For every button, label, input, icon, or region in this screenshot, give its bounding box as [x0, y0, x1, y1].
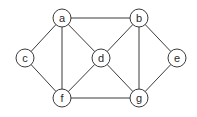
node-label: g [136, 92, 142, 104]
node-label: c [22, 52, 28, 64]
node-b: b [130, 9, 148, 27]
node-label: b [136, 12, 142, 24]
graph-diagram: abcdefg [0, 0, 197, 117]
node-a: a [53, 9, 71, 27]
node-c: c [16, 49, 34, 67]
node-f: f [53, 89, 71, 107]
node-label: e [174, 52, 180, 64]
node-g: g [130, 89, 148, 107]
node-e: e [168, 49, 186, 67]
node-d: d [92, 49, 110, 67]
nodes-group: abcdefg [16, 9, 186, 107]
node-label: d [98, 52, 104, 64]
node-label: a [59, 12, 66, 24]
